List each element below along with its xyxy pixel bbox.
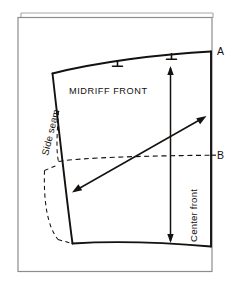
grainline-arrow-diagonal [72,116,207,193]
dart-leg-lower [44,171,58,240]
dart-tick-lower [58,240,71,244]
side-seam-label: Side seam [39,108,61,156]
dart-tick-upper [45,165,58,171]
grainline-arrow-vertical [167,66,173,243]
waist-edge [53,52,212,74]
piece-name-label: MIDRIFF FRONT [69,86,148,96]
center-front-label: Center front [188,189,199,242]
level-line-b [59,155,217,161]
pattern-diagram: MIDRIFF FRONT Side seam Center front A B [0,0,235,281]
side-seam-edge [53,74,73,244]
mark-b-label: B [217,149,224,161]
mark-a-label: A [217,45,224,57]
pattern-drawing-canvas: MIDRIFF FRONT Side seam Center front A B [0,0,235,281]
